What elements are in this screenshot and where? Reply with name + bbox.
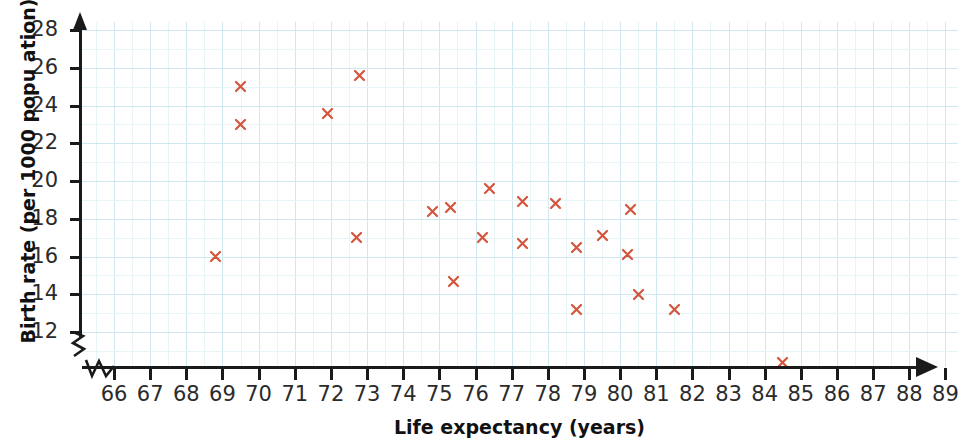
grid-line-horizontal-major — [80, 68, 958, 69]
x-axis-tick — [402, 368, 405, 380]
grid-line-vertical-major — [729, 22, 730, 367]
x-axis-line — [82, 366, 920, 369]
grid-line-vertical-minor — [710, 22, 711, 367]
x-axis-tick — [800, 368, 803, 380]
x-axis-tick-label: 82 — [672, 384, 712, 405]
x-axis-tick — [366, 368, 369, 380]
data-point-marker — [623, 202, 638, 217]
x-axis-tick — [836, 368, 839, 380]
x-axis-tick — [294, 368, 297, 380]
x-axis-title: Life expectancy (years) — [0, 416, 969, 438]
grid-line-vertical-major — [692, 22, 693, 367]
grid-line-vertical-minor — [96, 22, 97, 367]
data-point-marker — [443, 200, 458, 215]
x-axis-tick — [258, 368, 261, 380]
grid-line-horizontal-minor — [80, 238, 958, 239]
grid-line-horizontal-major — [80, 257, 958, 258]
grid-line-horizontal-minor — [80, 200, 958, 201]
grid-line-horizontal-minor — [80, 313, 958, 314]
x-axis-tick-label: 68 — [166, 384, 206, 405]
x-axis-tick-label: 87 — [853, 384, 893, 405]
grid-line-vertical-major — [331, 22, 332, 367]
x-axis-tick-label: 88 — [889, 384, 929, 405]
data-point-marker — [320, 106, 335, 121]
x-axis-arrow-icon — [916, 357, 938, 377]
x-axis-tick-label: 77 — [492, 384, 532, 405]
x-axis-tick-label: 85 — [781, 384, 821, 405]
grid-line-vertical-minor — [530, 22, 531, 367]
grid-line-vertical-major — [945, 22, 946, 367]
x-axis-tick-label: 81 — [636, 384, 676, 405]
x-axis-tick — [221, 368, 224, 380]
x-axis-tick — [330, 368, 333, 380]
x-axis-tick-label: 76 — [456, 384, 496, 405]
x-axis-tick-label: 69 — [202, 384, 242, 405]
grid-line-vertical-minor — [457, 22, 458, 367]
x-axis-tick — [511, 368, 514, 380]
grid-line-vertical-minor — [674, 22, 675, 367]
grid-line-vertical-major — [150, 22, 151, 367]
x-axis-title-text: Life expectancy (years) — [394, 416, 645, 438]
data-point-marker — [352, 68, 367, 83]
data-point-marker — [569, 302, 584, 317]
grid-line-vertical-minor — [747, 22, 748, 367]
x-axis-tick-label: 75 — [419, 384, 459, 405]
grid-line-vertical-major — [403, 22, 404, 367]
grid-line-vertical-major — [439, 22, 440, 367]
x-axis-tick-label: 86 — [817, 384, 857, 405]
grid-line-horizontal-minor — [80, 87, 958, 88]
grid-line-vertical-minor — [421, 22, 422, 367]
x-axis-tick — [475, 368, 478, 380]
grid-line-vertical-minor — [819, 22, 820, 367]
x-axis-tick — [619, 368, 622, 380]
y-axis-tick — [70, 218, 81, 221]
grid-line-vertical-major — [259, 22, 260, 367]
x-axis-tick — [944, 368, 947, 380]
grid-line-vertical-major — [909, 22, 910, 367]
x-axis-tick-label: 83 — [709, 384, 749, 405]
x-axis-tick — [438, 368, 441, 380]
x-axis-tick — [655, 368, 658, 380]
x-axis-tick — [908, 368, 911, 380]
y-axis-tick — [70, 142, 81, 145]
x-axis-tick-label: 79 — [564, 384, 604, 405]
plot-area — [80, 22, 958, 367]
data-point-marker — [515, 194, 530, 209]
grid-line-vertical-minor — [855, 22, 856, 367]
grid-line-vertical-major — [584, 22, 585, 367]
scatter-plot-figure: 121416182022242628 666768697071727374757… — [0, 0, 969, 447]
grid-line-vertical-minor — [783, 22, 784, 367]
y-axis-tick — [70, 293, 81, 296]
data-point-marker — [548, 196, 563, 211]
x-axis-tick-label: 74 — [383, 384, 423, 405]
grid-line-vertical-minor — [927, 22, 928, 367]
x-axis-tick — [185, 368, 188, 380]
x-axis-tick-label: 78 — [528, 384, 568, 405]
grid-line-vertical-minor — [385, 22, 386, 367]
grid-line-vertical-minor — [602, 22, 603, 367]
x-axis-tick-label: 73 — [347, 384, 387, 405]
grid-line-horizontal-minor — [80, 162, 958, 163]
x-axis-tick-label: 80 — [600, 384, 640, 405]
grid-line-vertical-minor — [132, 22, 133, 367]
grid-line-vertical-major — [801, 22, 802, 367]
grid-line-vertical-major — [548, 22, 549, 367]
x-axis-tick-label: 71 — [275, 384, 315, 405]
x-axis-tick — [691, 368, 694, 380]
grid-line-horizontal-minor — [80, 49, 958, 50]
grid-line-vertical-minor — [204, 22, 205, 367]
x-axis-tick-label: 84 — [745, 384, 785, 405]
grid-line-horizontal-major — [80, 106, 958, 107]
x-axis-tick — [547, 368, 550, 380]
x-axis-tick-label: 66 — [94, 384, 134, 405]
data-point-marker — [425, 204, 440, 219]
y-axis-arrow-icon — [73, 12, 87, 30]
grid-line-horizontal-major — [80, 30, 958, 31]
grid-line-vertical-major — [114, 22, 115, 367]
grid-line-vertical-major — [476, 22, 477, 367]
grid-line-vertical-minor — [566, 22, 567, 367]
grid-line-vertical-minor — [891, 22, 892, 367]
y-axis-break-icon — [70, 330, 92, 358]
grid-line-horizontal-major — [80, 294, 958, 295]
x-axis-tick-label: 89 — [925, 384, 965, 405]
